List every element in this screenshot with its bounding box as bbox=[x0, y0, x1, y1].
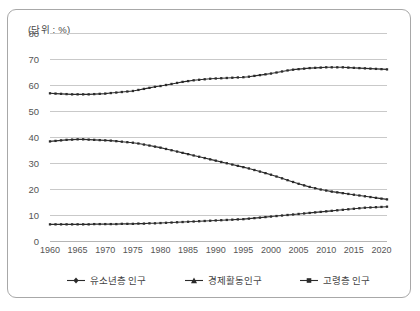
gridline bbox=[50, 241, 387, 242]
legend-item[interactable]: 고령층 인구 bbox=[300, 273, 371, 287]
x-axis-tick-label: 1975 bbox=[123, 245, 143, 255]
y-axis-tick-label: 30 bbox=[9, 158, 39, 169]
triangle-marker bbox=[185, 276, 203, 285]
y-axis-tick-label: 60 bbox=[9, 80, 39, 91]
legend-label: 경제활동인구 bbox=[208, 273, 262, 287]
x-axis-tick-label: 2020 bbox=[371, 245, 391, 255]
x-axis-tick-label: 1960 bbox=[40, 245, 60, 255]
y-axis-tick-label: 0 bbox=[9, 236, 39, 247]
y-axis-tick-label: 50 bbox=[9, 106, 39, 117]
legend-item[interactable]: 유소년층 인구 bbox=[67, 273, 147, 287]
x-axis-tick-label: 1970 bbox=[95, 245, 115, 255]
x-axis-tick-label: 2015 bbox=[344, 245, 364, 255]
y-axis-tick-label: 10 bbox=[9, 210, 39, 221]
series-diamond-marker bbox=[49, 138, 388, 200]
y-axis-tick-label: 70 bbox=[9, 54, 39, 65]
y-axis-tick-label: 40 bbox=[9, 132, 39, 143]
x-axis-tick-label: 2005 bbox=[289, 245, 309, 255]
x-axis-tick-label: 1980 bbox=[150, 245, 170, 255]
legend-item[interactable]: 경제활동인구 bbox=[185, 273, 262, 287]
diamond-marker bbox=[67, 276, 85, 285]
legend-label: 고령층 인구 bbox=[323, 273, 371, 287]
x-axis-tick-label: 1995 bbox=[233, 245, 253, 255]
y-axis-tick-label: 20 bbox=[9, 184, 39, 195]
x-axis-tick-label: 1990 bbox=[206, 245, 226, 255]
x-axis-tick-label: 1965 bbox=[68, 245, 88, 255]
x-axis-tick-label: 2000 bbox=[261, 245, 281, 255]
x-axis-tick-label: 2010 bbox=[316, 245, 336, 255]
chart-frame: (단위 : %) 80706050403020100 1960196519701… bbox=[7, 9, 411, 298]
y-axis-tick-label: 80 bbox=[9, 28, 39, 39]
series-triangle-marker bbox=[49, 66, 388, 95]
x-axis-tick-label: 1985 bbox=[178, 245, 198, 255]
square-marker bbox=[300, 276, 318, 285]
series-lines bbox=[50, 33, 387, 241]
series-square-marker bbox=[49, 206, 388, 226]
plot-area: 80706050403020100 1960196519701975198019… bbox=[50, 33, 387, 241]
legend-label: 유소년층 인구 bbox=[90, 273, 147, 287]
chart-legend: 유소년층 인구경제활동인구고령층 인구 bbox=[50, 273, 387, 287]
